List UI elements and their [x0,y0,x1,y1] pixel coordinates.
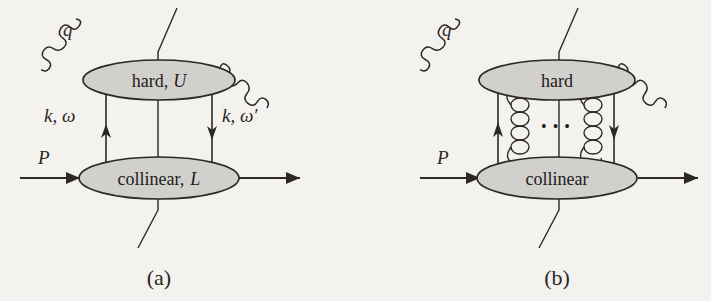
panel-b: • • • hard collinear q P (b) [410,8,698,290]
photon-momentum-label: q [442,19,452,40]
outgoing-hadron-arrowhead [684,172,698,184]
right-rung-momentum-label: k, ω′ [222,105,258,126]
hadron-momentum-label: P [37,147,50,168]
gluon-line-left [507,90,529,165]
collinear-blob-label: collinear [526,169,589,189]
panel-a: hard,U collinear,L q k, ω k, ω′ P (a) [20,8,300,290]
cut-line [138,8,177,248]
photon-momentum-label: q [63,19,73,40]
incoming-photon-wavy-line [410,14,465,73]
gluon-line-right [580,90,602,165]
panel-caption-a: (a) [147,265,171,290]
gluon-ellipsis: • • • [541,118,571,135]
left-rung-momentum-label: k, ω [44,105,75,126]
outgoing-hadron-arrowhead [286,172,300,184]
panel-caption-b: (b) [544,265,570,290]
hard-blob-label: hard,U [132,71,187,91]
feynman-diagram-figure: hard,U collinear,L q k, ω k, ω′ P (a) [0,0,711,301]
hard-blob-label: hard [541,71,573,91]
hadron-momentum-label: P [436,147,449,168]
incoming-hadron-arrowhead [66,172,80,184]
incoming-photon-wavy-line [31,14,86,73]
